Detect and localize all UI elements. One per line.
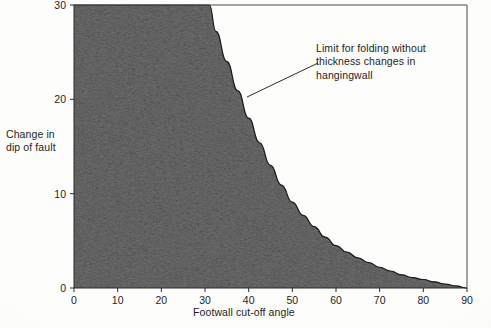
x-tick-label: 80 — [417, 294, 429, 306]
y-tick-label: 0 — [40, 282, 66, 294]
x-tick-label: 60 — [330, 294, 342, 306]
x-tick-label: 30 — [199, 294, 211, 306]
y-axis-title: Change in dip of fault — [6, 128, 56, 153]
y-tick-label: 30 — [40, 0, 66, 11]
x-axis-ticks — [74, 288, 467, 292]
y-axis-ticks — [70, 5, 74, 288]
figure-canvas: 0102030405060708090 0102030 Change in di… — [0, 0, 491, 328]
x-axis-title: Footwall cut-off angle — [193, 306, 295, 319]
annotation-leader-line — [247, 63, 318, 97]
x-tick-label: 10 — [112, 294, 124, 306]
x-tick-label: 40 — [243, 294, 255, 306]
y-tick-label: 10 — [40, 188, 66, 200]
x-tick-label: 50 — [286, 294, 298, 306]
x-tick-label: 90 — [461, 294, 473, 306]
x-tick-label: 20 — [155, 294, 167, 306]
x-tick-label: 70 — [374, 294, 386, 306]
y-tick-label: 20 — [40, 93, 66, 105]
x-tick-label: 0 — [71, 294, 77, 306]
limit-curve-annotation: Limit for folding without thickness chan… — [316, 42, 426, 82]
